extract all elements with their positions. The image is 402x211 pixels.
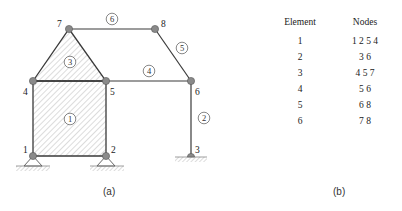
- node-label-4: 4: [23, 87, 28, 97]
- table-row: 5 6 8: [270, 97, 400, 113]
- node-3: [187, 153, 194, 157]
- node-label-2: 2: [111, 145, 116, 155]
- node-7: [65, 25, 72, 32]
- element-label-3: 3: [68, 57, 72, 67]
- table-row: 3 4 5 7: [270, 65, 400, 81]
- node-2: [102, 152, 109, 159]
- node-label-7: 7: [57, 19, 62, 29]
- node-label-3: 3: [195, 145, 200, 155]
- node-label-6: 6: [195, 87, 200, 97]
- node-1: [29, 152, 36, 159]
- node-4: [29, 77, 36, 84]
- element-3-triangle: [33, 29, 106, 81]
- node-8: [151, 25, 158, 32]
- node-label-1: 1: [23, 145, 28, 155]
- caption-a: (a): [103, 186, 115, 197]
- cell-nodes: 7 8: [330, 113, 400, 129]
- table-row: 4 5 6: [270, 81, 400, 97]
- fixed-support-node-3: [175, 157, 207, 162]
- node-label-8: 8: [161, 19, 166, 29]
- node-label-5: 5: [110, 87, 115, 97]
- element-label-1: 1: [68, 114, 72, 124]
- element-5-bar: [155, 29, 191, 81]
- cell-nodes: 1 2 5 4: [330, 33, 400, 49]
- table-row: 2 3 6: [270, 49, 400, 65]
- cell-element: 1: [270, 33, 330, 49]
- header-nodes: Nodes: [330, 15, 400, 33]
- table-header: Element Nodes: [270, 15, 400, 33]
- caption-b: (b): [333, 186, 345, 197]
- cell-nodes: 5 6: [330, 81, 400, 97]
- cell-element: 4: [270, 81, 330, 97]
- node-6: [187, 77, 194, 84]
- cell-nodes: 3 6: [330, 49, 400, 65]
- table-row: 6 7 8: [270, 113, 400, 129]
- cell-element: 3: [270, 65, 330, 81]
- element-label-2: 2: [202, 113, 206, 123]
- header-element: Element: [270, 15, 330, 33]
- cell-nodes: 6 8: [330, 97, 400, 113]
- cell-nodes: 4 5 7: [330, 65, 400, 81]
- cell-element: 2: [270, 49, 330, 65]
- node-5: [102, 77, 109, 84]
- connectivity-table: Element Nodes 1 1 2 5 4 2 3 6 3 4 5 7 4 …: [270, 15, 400, 129]
- element-label-5: 5: [180, 43, 184, 53]
- table-row: 1 1 2 5 4: [270, 33, 400, 49]
- element-label-6: 6: [110, 14, 114, 24]
- cell-element: 6: [270, 113, 330, 129]
- finite-element-mesh-diagram: 1 2 3 4 5 6 7 8 1 2 3 4 5 6: [0, 0, 240, 211]
- cell-element: 5: [270, 97, 330, 113]
